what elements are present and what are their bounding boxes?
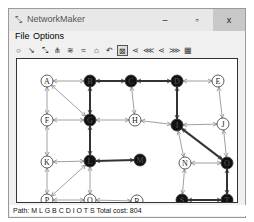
edge-I-N <box>178 131 184 157</box>
node-D[interactable]: D <box>171 75 183 87</box>
node-label: M <box>136 156 143 165</box>
node-label: H <box>132 116 138 125</box>
node-Q[interactable]: Q <box>84 194 96 202</box>
edge-I-J <box>183 124 217 125</box>
window-title: NetworkMaker <box>27 14 85 24</box>
node-label: O <box>224 159 230 168</box>
node-R[interactable]: R <box>131 195 143 202</box>
node-A[interactable]: A <box>41 75 53 87</box>
edge-C-H <box>132 87 135 114</box>
network-graph[interactable]: ABCDEFGHIJKLMNOPQRST <box>17 59 237 202</box>
flow-icon[interactable]: ⋖ <box>130 45 141 56</box>
tree-icon[interactable]: ⋔ <box>52 45 63 56</box>
node-K[interactable]: K <box>41 156 53 168</box>
edge-H-I <box>141 121 171 125</box>
node-label: B <box>87 77 92 86</box>
title-bar[interactable]: ⤡ NetworkMaker – ▫ x <box>9 9 245 31</box>
two-way-link-icon[interactable]: ⤡ <box>39 45 50 56</box>
node-G[interactable]: G <box>84 114 96 126</box>
max-flow-icon[interactable]: ⋘ <box>143 45 154 56</box>
node-label: S <box>180 196 184 202</box>
new-node-icon[interactable]: ○ <box>13 45 24 56</box>
edge-A-G <box>51 85 85 116</box>
edge-E-J <box>219 87 223 118</box>
node-label: I <box>176 121 179 130</box>
app-window: ⤡ NetworkMaker – ▫ x File Options ○↘⤡⋔≋≈… <box>8 8 246 218</box>
menu-options[interactable]: Options <box>33 31 64 41</box>
node-I[interactable]: I <box>171 119 183 131</box>
node-J[interactable]: J <box>217 118 229 130</box>
minimal-tree-icon[interactable]: ≈ <box>78 45 89 56</box>
maximize-button[interactable]: ▫ <box>181 9 213 31</box>
spanning-tree-icon[interactable]: ≋ <box>65 45 76 56</box>
node-label: J <box>221 120 224 129</box>
menu-bar: File Options <box>9 31 245 43</box>
node-label: C <box>128 77 133 86</box>
edge-I-O <box>182 129 222 160</box>
node-T[interactable]: T <box>221 194 233 202</box>
node-M[interactable]: M <box>134 154 146 166</box>
cut-icon[interactable]: ⋙ <box>169 45 180 56</box>
node-H[interactable]: H <box>129 114 141 126</box>
node-label: P <box>45 196 50 202</box>
node-label: G <box>87 116 93 125</box>
minimize-button[interactable]: – <box>149 9 181 31</box>
node-L[interactable]: L <box>84 155 96 167</box>
edge-L-P <box>51 165 85 196</box>
node-label: L <box>88 157 93 166</box>
node-O[interactable]: O <box>221 157 233 169</box>
node-label: A <box>44 77 50 86</box>
close-button[interactable]: x <box>213 9 245 31</box>
path-icon[interactable]: ↶ <box>104 45 115 56</box>
node-F[interactable]: F <box>41 114 53 126</box>
node-label: E <box>216 77 221 86</box>
node-label: F <box>45 116 50 125</box>
toolbar: ○↘⤡⋔≋≈⌂↶⊠⋖⋘⋖⋙▦ <box>9 43 245 57</box>
network-icon[interactable]: ⌂ <box>91 45 102 56</box>
node-N[interactable]: N <box>179 157 191 169</box>
node-label: Q <box>87 196 93 202</box>
node-label: N <box>182 159 188 168</box>
one-way-link-icon[interactable]: ↘ <box>26 45 37 56</box>
edge-L-M <box>96 160 134 161</box>
node-E[interactable]: E <box>212 75 224 87</box>
app-icon: ⤡ <box>15 15 22 26</box>
menu-file[interactable]: File <box>15 31 30 41</box>
edge-K-L <box>53 161 84 162</box>
node-label: K <box>44 158 50 167</box>
node-label: T <box>225 196 230 202</box>
edge-Q-R <box>96 200 131 201</box>
node-C[interactable]: C <box>125 75 137 87</box>
shortest-path-icon[interactable]: ⊠ <box>117 45 128 56</box>
node-P[interactable]: P <box>41 194 53 202</box>
min-flow-icon[interactable]: ⋖ <box>156 45 167 56</box>
graph-canvas[interactable]: ABCDEFGHIJKLMNOPQRST <box>16 58 238 203</box>
grid-icon[interactable]: ▦ <box>182 45 193 56</box>
node-B[interactable]: B <box>84 75 96 87</box>
node-S[interactable]: S <box>176 194 188 202</box>
node-label: R <box>134 197 140 202</box>
arrowhead-icon <box>127 199 131 202</box>
edge-N-S <box>182 169 184 194</box>
edge-J-O <box>224 130 227 157</box>
node-label: D <box>174 77 180 86</box>
status-bar: Path: M L G B C D I O T S Total cost: 80… <box>10 205 247 216</box>
